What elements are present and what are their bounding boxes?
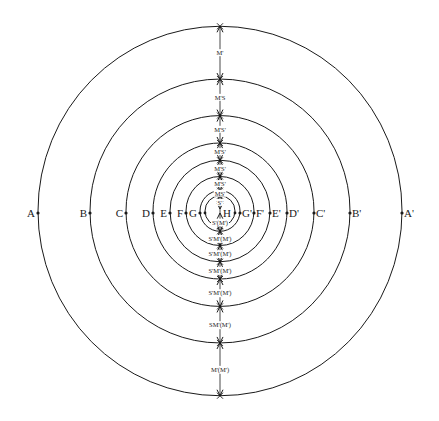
label-e-right: E': [272, 207, 281, 219]
label-c-left: C: [116, 207, 123, 219]
label-d-right: D': [289, 207, 299, 219]
label-a-left: A: [27, 207, 35, 219]
point-d-left: [151, 211, 154, 214]
lower-segment-label: S'M'(M'): [208, 289, 231, 297]
label-a-right: A': [404, 207, 414, 219]
label-c-right: C': [316, 207, 325, 219]
upper-segment-label: M'S': [214, 148, 226, 155]
lower-segment-label: S'M'(M'): [208, 250, 231, 258]
label-b-left: B: [80, 207, 87, 219]
label-f-left: F: [177, 207, 183, 219]
label-g-right: G': [242, 207, 252, 219]
point-h-left: [204, 212, 207, 215]
point-e-left: [168, 211, 171, 214]
point-a-left: [36, 211, 39, 214]
label-b-right: B': [352, 207, 361, 219]
concentric-circles-diagram: AA'BB'CC'DD'EE'FF'GG'HM'M'SM'S'M'S'M'S'M…: [0, 0, 439, 421]
label-d-left: D: [142, 207, 150, 219]
upper-segment-label: M'S: [215, 94, 226, 101]
lower-segment-label: S'M'(M'): [208, 267, 231, 275]
lower-segment-label: S'M'(M'): [208, 235, 231, 243]
point-g-left: [198, 211, 201, 214]
upper-segment-label: M'S': [214, 126, 226, 133]
point-c-left: [124, 211, 127, 214]
lower-segment-label: S'(M'): [212, 219, 228, 227]
label-e-left: E: [160, 207, 167, 219]
upper-segment-label: M'S': [214, 180, 226, 187]
point-f-left: [184, 211, 187, 214]
lower-segment-label: M'(M'): [211, 366, 229, 374]
point-h-right: [234, 212, 237, 215]
point-b-left: [88, 211, 91, 214]
label-center-h: H: [223, 207, 231, 219]
lower-segment-label: SM'(M'): [209, 321, 231, 329]
label-f-right: F': [256, 207, 264, 219]
upper-segment-label: MS': [215, 190, 226, 197]
labels-group: AA'BB'CC'DD'EE'FF'GG'HM'M'SM'S'M'S'M'S'M…: [27, 49, 414, 374]
upper-segment-label: M': [217, 49, 224, 56]
label-g-left: G: [189, 207, 197, 219]
upper-segment-label: S': [218, 199, 223, 206]
upper-segment-label: M'S': [214, 165, 226, 172]
